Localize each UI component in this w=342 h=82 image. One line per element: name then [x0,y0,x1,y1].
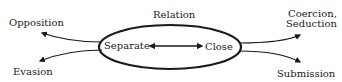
evasion-label: Evasion [13,66,53,77]
close-node: Close [205,41,233,52]
relation-diagram: Relation Separate Close Opposition Evasi… [0,0,342,82]
evasion-arrow [40,50,102,61]
coercion-seduction-arrow [239,35,300,43]
opposition-label: Opposition [9,17,64,28]
submission-label: Submission [277,68,335,79]
opposition-arrow [42,33,102,42]
seduction-label: Seduction [286,18,337,29]
relation-label: Relation [153,9,195,20]
submission-arrow [239,51,300,62]
separate-node: Separate [104,40,150,51]
